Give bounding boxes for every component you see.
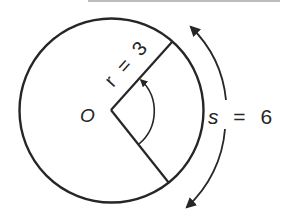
arc-var: s <box>208 105 219 128</box>
angle-arc-arrow-icon <box>139 80 154 144</box>
arc-length-arrow-down-icon <box>187 129 225 207</box>
circle-arc-diagram: O r = 3 s = 6 <box>0 0 289 218</box>
arc-length-label: s = 6 <box>208 105 272 128</box>
radius-eq: = <box>112 54 136 77</box>
arc-length-arrow-up-icon <box>191 27 226 100</box>
arc-value: 6 <box>260 105 272 128</box>
arc-eq: = <box>233 105 245 128</box>
radius-lower <box>111 110 169 183</box>
radius-var: r <box>100 71 121 91</box>
center-label: O <box>80 105 95 126</box>
radius-value: 3 <box>127 37 151 60</box>
